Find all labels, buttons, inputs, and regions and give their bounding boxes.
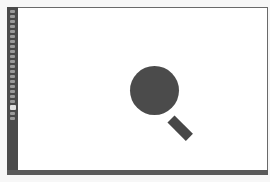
tools-panel bbox=[7, 7, 18, 173]
shape-tool-icon[interactable] bbox=[10, 95, 15, 98]
magic-wand-icon[interactable] bbox=[10, 25, 15, 28]
color-swatches-icon[interactable] bbox=[10, 112, 15, 115]
eyedropper-icon[interactable] bbox=[10, 35, 15, 38]
gradient-tool-icon[interactable] bbox=[10, 65, 15, 68]
quick-mask-icon[interactable] bbox=[10, 117, 15, 120]
zoom-tool-icon[interactable] bbox=[10, 105, 16, 110]
document-canvas[interactable] bbox=[18, 8, 267, 170]
type-tool-icon[interactable] bbox=[10, 85, 15, 88]
magnifier-handle-shape bbox=[167, 115, 192, 140]
clone-stamp-icon[interactable] bbox=[10, 50, 15, 53]
eraser-icon[interactable] bbox=[10, 60, 15, 63]
lasso-tool-icon[interactable] bbox=[10, 20, 15, 23]
brush-tool-icon[interactable] bbox=[10, 45, 15, 48]
hand-tool-icon[interactable] bbox=[10, 100, 15, 103]
move-tool-icon[interactable] bbox=[10, 10, 15, 13]
blur-tool-icon[interactable] bbox=[10, 70, 15, 73]
history-brush-icon[interactable] bbox=[10, 55, 15, 58]
pen-tool-icon[interactable] bbox=[10, 80, 15, 83]
path-selection-icon[interactable] bbox=[10, 90, 15, 93]
healing-brush-icon[interactable] bbox=[10, 40, 15, 43]
marquee-tool-icon[interactable] bbox=[10, 15, 15, 18]
dodge-tool-icon[interactable] bbox=[10, 75, 15, 78]
status-bar bbox=[7, 170, 268, 175]
crop-tool-icon[interactable] bbox=[10, 30, 15, 33]
magnifier-lens-shape bbox=[130, 66, 179, 115]
